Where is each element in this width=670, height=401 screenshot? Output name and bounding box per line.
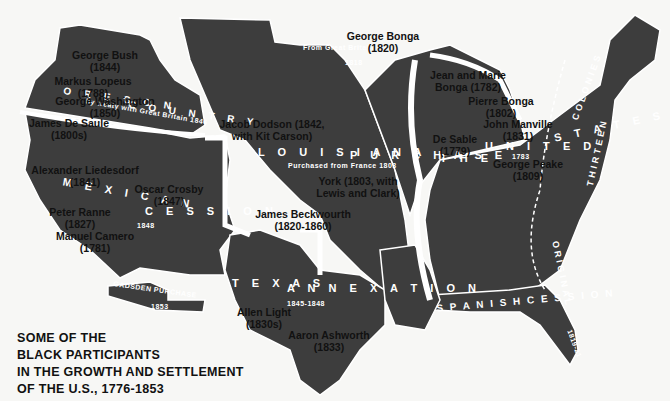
person-label: James De Saule(1800s): [29, 117, 109, 141]
title-line: BLACK PARTICIPANTS: [17, 347, 244, 364]
person-label: Oscar Crosby(1847): [135, 183, 204, 207]
person-label: Jean and MarieBonga (1782): [430, 69, 506, 93]
person-label: Jacob Dodson (1842,with Kit Carson): [219, 118, 324, 142]
louisiana-sub-label: Purchased from France 1803: [288, 162, 397, 169]
person-label: Peter Ranne(1827): [49, 206, 110, 230]
person-label: Pierre Bonga(1802): [468, 95, 533, 119]
map-title: SOME OF THE BLACK PARTICIPANTS IN THE GR…: [17, 330, 244, 398]
person-label: George Bonga(1820): [347, 30, 419, 54]
person-label: George Washington(1850): [55, 95, 154, 119]
great-britain-year: 1818: [345, 59, 363, 66]
person-label: Allen Light(1830s): [237, 306, 291, 330]
texas-label-right: A N N E X A T I O N: [287, 282, 481, 294]
person-label: Manuel Camero(1781): [56, 230, 134, 254]
person-label: De Sable(1779): [433, 133, 477, 157]
texas-sub-label: 1845-1848: [287, 300, 325, 307]
person-label: James Beckwourth(1820-1860): [255, 208, 351, 232]
title-line: SOME OF THE: [17, 330, 244, 347]
person-label: York (1803, withLewis and Clark): [316, 175, 399, 199]
title-line: IN THE GROWTH AND SETTLEMENT: [17, 364, 244, 381]
person-label: John Manville(1831): [483, 118, 552, 142]
person-label: George Bush(1844): [72, 49, 138, 73]
mexican-sub-label: 1848: [137, 222, 155, 229]
person-label: Aaron Ashworth(1833): [288, 329, 369, 353]
person-label: George Peake(1809): [493, 158, 563, 182]
person-label: Alexander Liedesdorf(1841): [31, 164, 138, 188]
title-line: OF THE U.S., 1776-1853: [17, 381, 244, 398]
gadsden-sub-label: 1853: [151, 303, 169, 310]
map: O R E G O N C O U N T R Y by treaty with…: [0, 0, 670, 401]
